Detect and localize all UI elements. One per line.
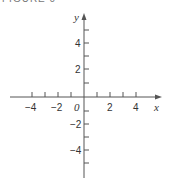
coordinate-plane: x y 0 −4 −2 2 4 4 2 −2 −4	[0, 0, 172, 187]
x-axis-arrow-icon	[155, 95, 162, 100]
y-axis-arrow-icon	[82, 13, 87, 20]
x-axis-label: x	[153, 101, 159, 113]
x-tick-label: 4	[133, 102, 139, 113]
origin-label: 0	[74, 101, 80, 113]
x-tick-label: −4	[25, 102, 37, 113]
y-tick-label: −4	[70, 145, 82, 156]
y-tick-label: 4	[75, 38, 81, 49]
y-tick-label: 2	[75, 64, 81, 75]
x-tick-label: −2	[51, 102, 63, 113]
x-tick-label: 2	[107, 102, 113, 113]
y-tick-label: −2	[70, 119, 82, 130]
y-axis-label: y	[73, 11, 79, 23]
